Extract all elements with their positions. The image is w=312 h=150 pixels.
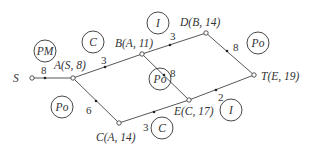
- node-B: [140, 52, 144, 56]
- region-label-I-top: I: [147, 12, 169, 34]
- node-label-C: C(A, 14): [96, 131, 136, 144]
- region-label-C-top: C: [82, 31, 104, 53]
- node-label-E: E(C, 17): [173, 105, 214, 118]
- svg-text:Po: Po: [55, 101, 69, 113]
- node-label-T: T(E, 19): [261, 70, 300, 83]
- region-label-I-bottom: I: [220, 99, 242, 121]
- network-diagram: S A(S, 8) B(A, 11) D(B, 14) T(E, 19) E(C…: [0, 0, 312, 150]
- svg-text:C: C: [89, 36, 97, 48]
- node-label-D: D(B, 14): [179, 16, 220, 29]
- node-E: [187, 98, 191, 102]
- edge-weight-E-T: 2: [218, 91, 224, 103]
- edge-D-T: [206, 33, 254, 75]
- node-label-S: S: [13, 72, 19, 84]
- arrow-marker-icon: [104, 66, 107, 69]
- node-A: [71, 76, 75, 80]
- node-label-B: B(A, 11): [115, 37, 153, 50]
- svg-text:Po: Po: [251, 37, 265, 49]
- arrow-marker-icon: [153, 111, 156, 114]
- node-C: [117, 121, 121, 125]
- edge-weight-A-B: 3: [101, 54, 107, 66]
- edge-weight-S-A: 8: [41, 64, 47, 76]
- node-T: [252, 73, 256, 77]
- region-label-C-bottom: C: [151, 117, 173, 139]
- svg-text:I: I: [228, 104, 234, 116]
- edge-weight-C-E: 3: [143, 121, 149, 133]
- node-S: [30, 76, 34, 80]
- svg-text:Po: Po: [153, 73, 167, 85]
- arrow-marker-icon: [95, 100, 98, 103]
- region-label-PM: PM: [34, 40, 56, 62]
- svg-text:I: I: [155, 17, 161, 29]
- arrow-marker-icon: [169, 44, 172, 47]
- arrow-marker-icon: [215, 89, 218, 92]
- svg-text:PM: PM: [36, 45, 55, 57]
- arrow-marker-icon: [44, 77, 47, 80]
- region-label-Po-left: Po: [51, 96, 73, 118]
- edge-weight-A-C: 6: [86, 104, 92, 116]
- edge-weight-B-D: 3: [170, 30, 176, 42]
- arrow-marker-icon: [226, 50, 229, 53]
- region-label-Po-right: Po: [247, 32, 269, 54]
- node-label-A: A(S, 8): [53, 59, 86, 72]
- edge-weight-D-T: 8: [233, 41, 239, 53]
- node-D: [204, 31, 208, 35]
- svg-text:C: C: [158, 122, 166, 134]
